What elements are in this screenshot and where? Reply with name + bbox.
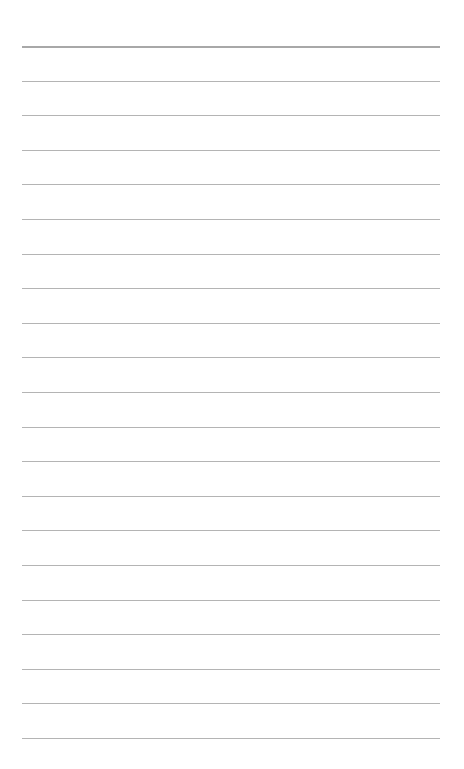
rule-line — [22, 184, 440, 185]
header-rule-line — [22, 46, 440, 48]
rule-line — [22, 392, 440, 393]
rule-line — [22, 669, 440, 670]
rule-line — [22, 565, 440, 566]
rule-line — [22, 738, 440, 739]
rule-line — [22, 219, 440, 220]
rule-line — [22, 530, 440, 531]
rule-line — [22, 427, 440, 428]
rule-line — [22, 496, 440, 497]
rule-line — [22, 288, 440, 289]
rule-line — [22, 323, 440, 324]
rule-line — [22, 150, 440, 151]
rule-line — [22, 115, 440, 116]
rule-line — [22, 703, 440, 704]
rule-line — [22, 254, 440, 255]
rule-line — [22, 357, 440, 358]
lined-page — [0, 0, 464, 769]
rule-line — [22, 461, 440, 462]
rule-line — [22, 634, 440, 635]
rule-line — [22, 81, 440, 82]
rule-line — [22, 600, 440, 601]
